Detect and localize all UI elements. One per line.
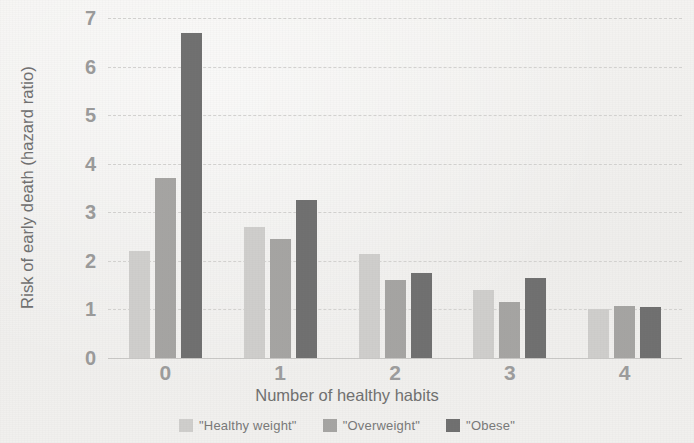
bar (244, 227, 265, 358)
bar (181, 33, 202, 358)
x-axis-tick-label: 3 (480, 361, 540, 385)
legend-item: "Obese" (446, 418, 515, 433)
plot-area: 01234567 01234 (108, 18, 682, 358)
x-axis-title: Number of healthy habits (0, 386, 694, 405)
bar (129, 251, 150, 358)
y-axis-tick-label: 5 (56, 104, 96, 127)
x-axis-tick-label: 2 (365, 361, 425, 385)
bar (499, 302, 520, 358)
y-axis-title: Risk of early death (hazard ratio) (18, 13, 37, 363)
x-axis-tick-label: 1 (250, 361, 310, 385)
legend-label: "Healthy weight" (199, 418, 297, 433)
legend-item: "Overweight" (323, 418, 420, 433)
bar (155, 178, 176, 358)
bar (411, 273, 432, 358)
bar (296, 200, 317, 358)
y-axis-tick-label: 2 (56, 249, 96, 272)
gridline (108, 358, 682, 359)
bar (614, 306, 635, 358)
gridline (108, 18, 682, 19)
y-axis-tick-label: 7 (56, 7, 96, 30)
bar (473, 290, 494, 358)
legend-swatch-icon (179, 419, 193, 432)
chart-legend: "Healthy weight""Overweight""Obese" (0, 418, 694, 433)
bar (525, 278, 546, 358)
bar (640, 307, 661, 358)
legend-label: "Overweight" (343, 418, 420, 433)
y-axis-tick-label: 1 (56, 298, 96, 321)
y-axis-tick-label: 0 (56, 347, 96, 370)
y-axis-tick-label: 6 (56, 55, 96, 78)
x-axis-tick-label: 4 (595, 361, 655, 385)
bar (385, 280, 406, 358)
bar (270, 239, 291, 358)
legend-swatch-icon (446, 419, 460, 432)
bar (359, 254, 380, 358)
legend-item: "Healthy weight" (179, 418, 297, 433)
y-axis-tick-label: 3 (56, 201, 96, 224)
bar (588, 309, 609, 358)
legend-label: "Obese" (466, 418, 515, 433)
legend-swatch-icon (323, 419, 337, 432)
y-axis-tick-label: 4 (56, 152, 96, 175)
x-axis-tick-label: 0 (135, 361, 195, 385)
